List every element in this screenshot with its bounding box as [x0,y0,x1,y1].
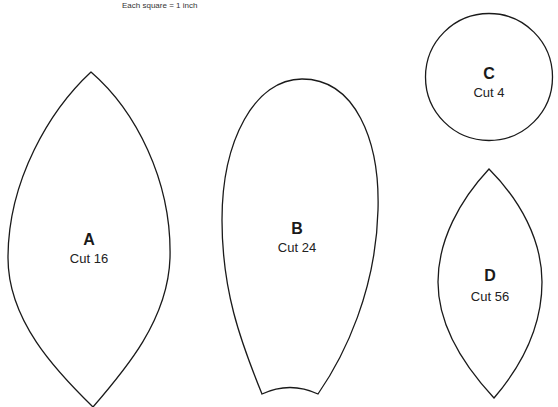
piece-a-cut: Cut 16 [70,252,108,265]
piece-c-letter: C [483,66,495,82]
piece-b-cut: Cut 24 [278,241,316,254]
pattern-shapes [0,0,558,407]
piece-d-cut: Cut 56 [471,290,509,303]
piece-c-cut: Cut 4 [473,86,504,99]
pattern-sheet: Each square = 1 inch A Cut 16 B Cut 24 C… [0,0,558,407]
piece-d-letter: D [484,268,496,284]
scale-caption: Each square = 1 inch [122,1,197,10]
piece-b-letter: B [291,221,303,237]
piece-a-letter: A [83,232,95,248]
